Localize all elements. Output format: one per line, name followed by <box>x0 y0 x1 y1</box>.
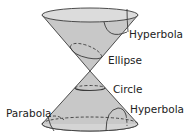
lower-cone <box>42 71 138 131</box>
label-hyperbola-top: Hyperbola <box>129 28 183 40</box>
label-ellipse: Ellipse <box>108 54 142 66</box>
conic-sections-diagram: Hyperbola Ellipse Circle Parabola Hyperb… <box>0 0 191 140</box>
label-hyperbola-bottom: Hyperbola <box>130 103 184 115</box>
label-parabola: Parabola <box>6 107 52 119</box>
label-circle: Circle <box>113 83 143 95</box>
